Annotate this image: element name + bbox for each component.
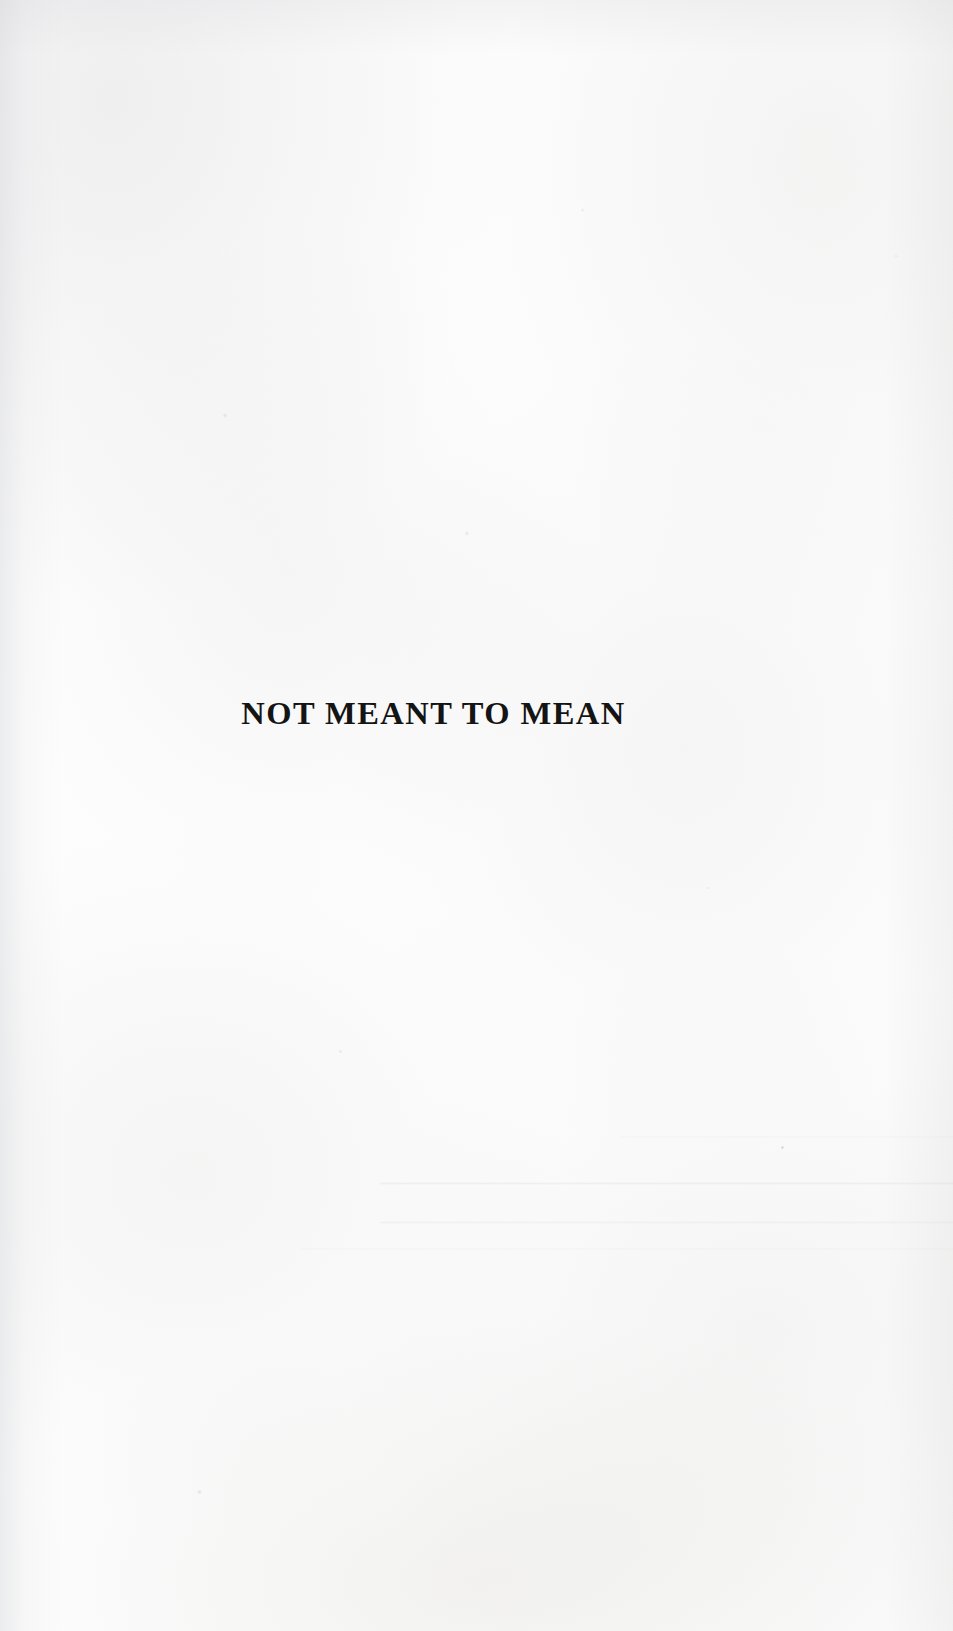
half-title-block: NOT MEANT TO MEAN [0, 693, 953, 734]
paper-speckle-artifacts [0, 0, 953, 1631]
half-title-text: NOT MEANT TO MEAN [241, 693, 625, 734]
scan-streak-artifacts [0, 0, 953, 1631]
book-page: NOT MEANT TO MEAN [0, 0, 953, 1631]
